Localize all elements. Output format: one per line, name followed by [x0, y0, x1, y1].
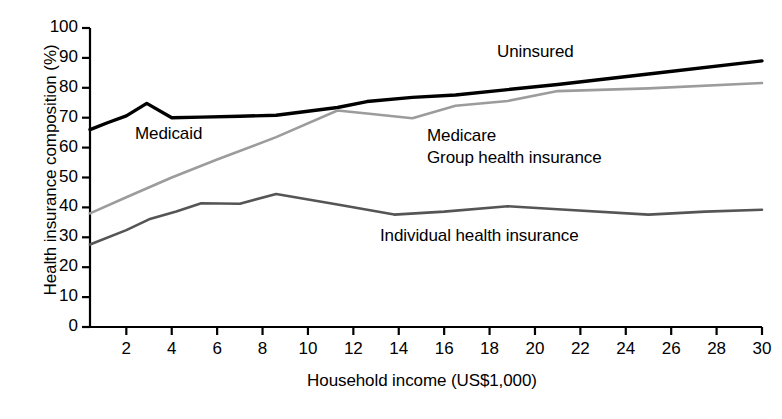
series-label-medicare: Medicare — [427, 126, 496, 146]
y-tick-label: 20 — [32, 256, 78, 276]
x-tick-label: 24 — [608, 339, 644, 359]
x-tick-label: 6 — [199, 339, 235, 359]
x-tick-label: 12 — [335, 339, 371, 359]
x-tick-label: 4 — [154, 339, 190, 359]
y-tick-label: 60 — [32, 137, 78, 157]
series-label-uninsured: Uninsured — [497, 42, 574, 62]
x-axis-title: Household income (US$1,000) — [0, 371, 782, 391]
x-tick-label: 14 — [381, 339, 417, 359]
y-tick-label: 50 — [32, 167, 78, 187]
series-label-group-health-insurance: Group health insurance — [427, 148, 602, 168]
x-tick-label: 20 — [517, 339, 553, 359]
series-label-medicaid: Medicaid — [135, 124, 202, 144]
x-tick-label: 16 — [426, 339, 462, 359]
y-tick-label: 100 — [32, 17, 78, 37]
y-tick-label: 30 — [32, 226, 78, 246]
x-tick-label: 8 — [245, 339, 281, 359]
x-tick-label: 22 — [562, 339, 598, 359]
y-tick-label: 40 — [32, 196, 78, 216]
series-label-individual-health-insurance: Individual health insurance — [380, 226, 579, 246]
x-tick-label: 30 — [744, 339, 780, 359]
chart-figure: Health insurance composition (%) Househo… — [0, 0, 782, 419]
y-tick-label: 10 — [32, 286, 78, 306]
y-tick-label: 80 — [32, 77, 78, 97]
y-tick-label: 0 — [32, 316, 78, 336]
x-tick-label: 18 — [472, 339, 508, 359]
x-tick-label: 10 — [290, 339, 326, 359]
x-tick-label: 26 — [653, 339, 689, 359]
data-series-lines — [90, 61, 762, 245]
x-tick-label: 28 — [699, 339, 735, 359]
y-tick-label: 70 — [32, 107, 78, 127]
y-tick-label: 90 — [32, 47, 78, 67]
x-tick-label: 2 — [108, 339, 144, 359]
